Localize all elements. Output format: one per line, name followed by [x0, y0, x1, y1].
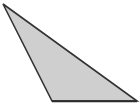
figure-canvas — [0, 0, 140, 108]
triangle-svg — [0, 0, 140, 108]
